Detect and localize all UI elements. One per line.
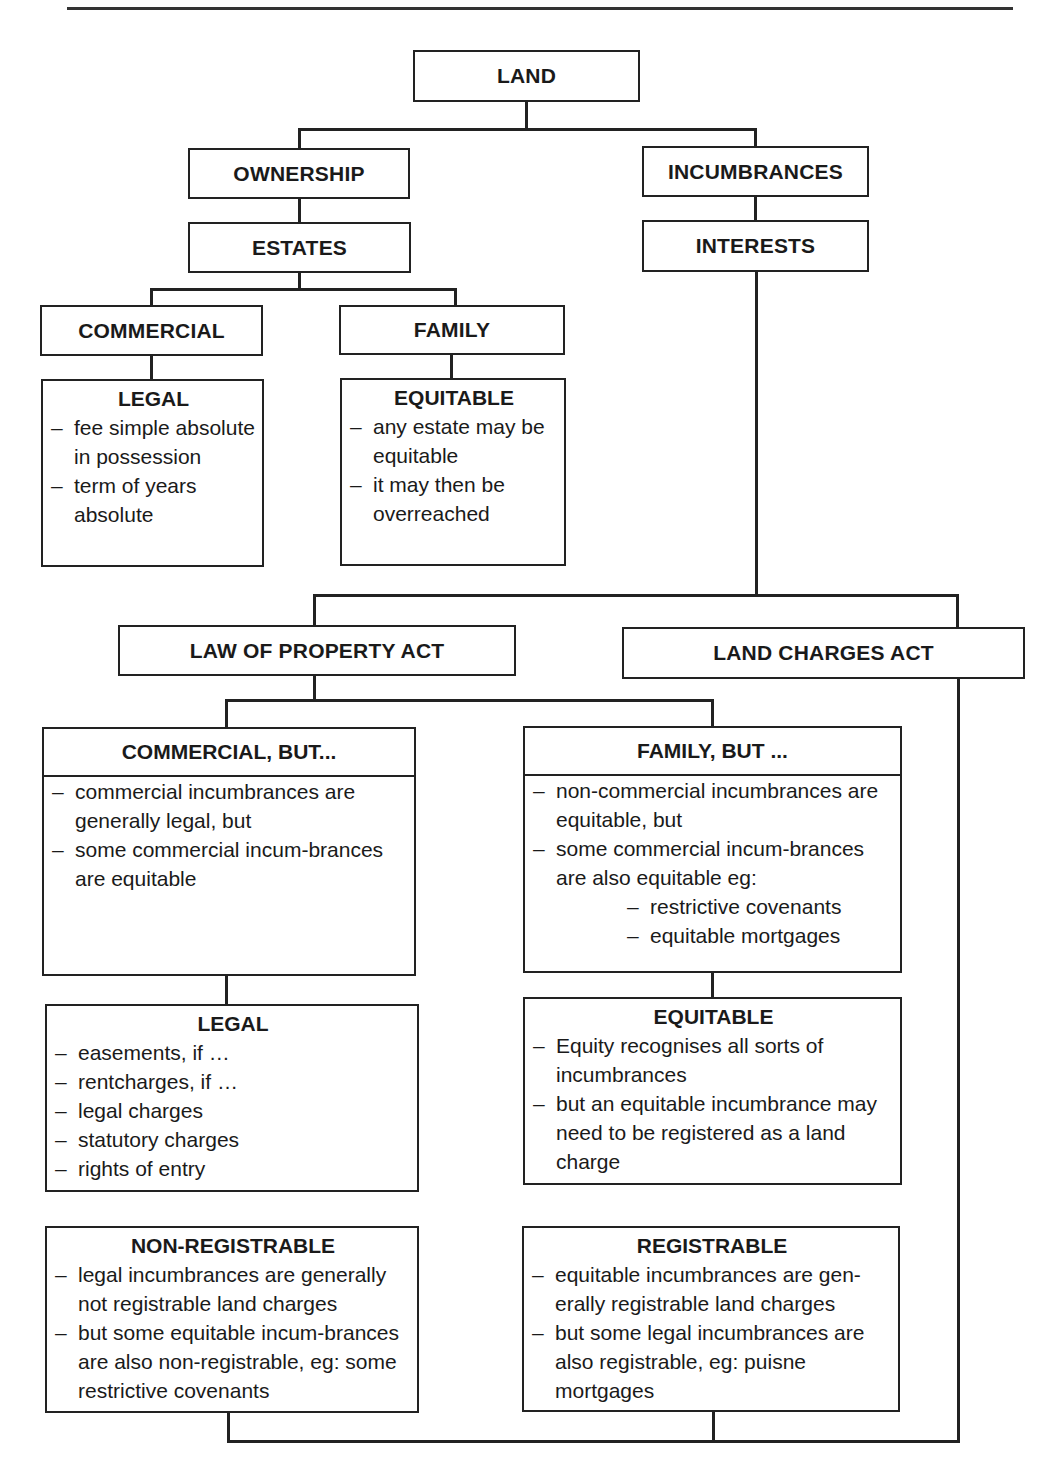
node-interests: INTERESTS: [642, 220, 869, 272]
list-item: rentcharges, if …: [55, 1067, 411, 1096]
connector: [225, 699, 713, 702]
list-item: statutory charges: [55, 1125, 411, 1154]
connector: [313, 594, 959, 597]
connector: [225, 699, 228, 728]
connector: [298, 128, 301, 149]
list-item: equitable incumbrances are gen-erally re…: [532, 1260, 892, 1318]
node-label: OWNERSHIP: [233, 162, 364, 186]
top-rule: [67, 7, 1013, 10]
node-land-charges-act: LAND CHARGES ACT: [622, 627, 1025, 679]
list-item: but some equitable incum-brances are als…: [55, 1318, 411, 1405]
list-item: some commercial incum-brances are also e…: [533, 834, 894, 892]
list-item: legal charges: [55, 1096, 411, 1125]
connector: [225, 974, 228, 1005]
list-item: but some legal incumbrances are also reg…: [532, 1318, 892, 1405]
node-legal-estate: LEGAL fee simple absolute in possession …: [41, 379, 264, 567]
connector: [711, 699, 714, 727]
node-land: LAND: [413, 50, 640, 102]
list-item: fee simple absolute in possession: [51, 413, 256, 471]
box-heading: LEGAL: [51, 385, 256, 413]
node-incumbrances: INCUMBRANCES: [642, 146, 869, 197]
connector: [227, 1411, 230, 1442]
connector: [298, 197, 301, 223]
list-item: it may then be overreached: [350, 470, 558, 528]
box-heading: EQUITABLE: [533, 1003, 894, 1031]
connector: [711, 971, 714, 998]
list-item: legal incumbrances are generally not reg…: [55, 1260, 411, 1318]
list-item: non-commercial incumbrances are equitabl…: [533, 776, 894, 834]
node-non-registrable: NON-REGISTRABLE legal incumbrances are g…: [45, 1226, 419, 1413]
node-label: FAMILY: [414, 318, 490, 342]
node-registrable: REGISTRABLE equitable incumbrances are g…: [522, 1226, 900, 1412]
connector: [150, 288, 456, 291]
list-item: some commercial incum-brances are equita…: [52, 835, 408, 893]
list-item: commercial incumbrances are generally le…: [52, 777, 408, 835]
connector: [754, 128, 757, 147]
node-ownership: OWNERSHIP: [188, 148, 410, 199]
connector: [150, 354, 153, 380]
box-heading: REGISTRABLE: [532, 1232, 892, 1260]
box-heading: NON-REGISTRABLE: [55, 1232, 411, 1260]
node-label: LAND CHARGES ACT: [713, 641, 934, 665]
list-item: rights of entry: [55, 1154, 411, 1183]
node-family-but: FAMILY, BUT ... non-commercial incumbran…: [523, 726, 902, 973]
list-subitem: restrictive covenants: [533, 892, 894, 921]
connector: [313, 674, 316, 701]
box-heading: EQUITABLE: [350, 384, 558, 412]
node-label: COMMERCIAL: [78, 319, 225, 343]
connector: [525, 100, 528, 130]
node-label: INTERESTS: [696, 234, 816, 258]
node-equitable-estate: EQUITABLE any estate may be equitable it…: [340, 378, 566, 566]
list-item: term of years absolute: [51, 471, 256, 529]
node-estates: ESTATES: [188, 222, 411, 273]
box-heading: LEGAL: [55, 1010, 411, 1038]
connector: [150, 288, 153, 306]
list-item: easements, if …: [55, 1038, 411, 1067]
connector: [298, 128, 756, 131]
node-equitable-interests: EQUITABLE Equity recognises all sorts of…: [523, 997, 902, 1185]
connector: [450, 353, 453, 379]
connector: [454, 288, 457, 306]
connector: [313, 594, 316, 626]
list-subitem: equitable mortgages: [533, 921, 894, 950]
node-legal-interests: LEGAL easements, if … rentcharges, if … …: [45, 1004, 419, 1192]
node-label: LAND: [497, 64, 556, 88]
node-label: ESTATES: [252, 236, 347, 260]
node-commercial: COMMERCIAL: [40, 305, 263, 356]
node-label: LAW OF PROPERTY ACT: [190, 639, 445, 663]
list-item: any estate may be equitable: [350, 412, 558, 470]
connector: [227, 1440, 960, 1443]
connector: [957, 677, 960, 1442]
connector: [712, 1410, 715, 1442]
box-heading: FAMILY, BUT ...: [525, 728, 900, 776]
list-item: Equity recognises all sorts of incumbran…: [533, 1031, 894, 1089]
box-heading: COMMERCIAL, BUT...: [44, 729, 414, 777]
list-item: but an equitable incumbrance may need to…: [533, 1089, 894, 1176]
connector: [755, 270, 758, 596]
connector: [956, 594, 959, 628]
node-label: INCUMBRANCES: [668, 160, 843, 184]
node-family: FAMILY: [339, 305, 565, 355]
node-law-of-property-act: LAW OF PROPERTY ACT: [118, 625, 516, 676]
node-commercial-but: COMMERCIAL, BUT... commercial incumbranc…: [42, 727, 416, 976]
connector: [754, 195, 757, 221]
